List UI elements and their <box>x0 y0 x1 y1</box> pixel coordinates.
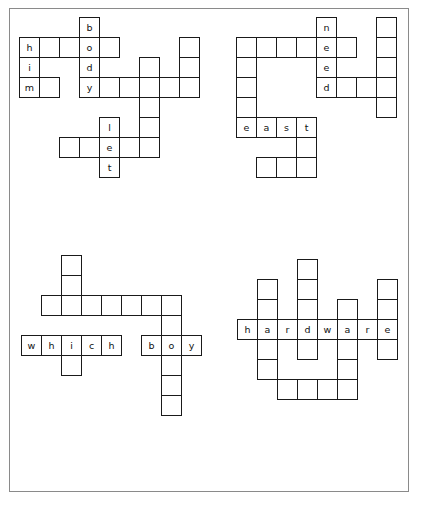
crossword-cell-empty[interactable] <box>39 37 60 58</box>
crossword-cell-filled[interactable]: d <box>316 77 337 98</box>
crossword-cell-empty[interactable] <box>99 37 120 58</box>
crossword-cell-filled[interactable]: c <box>81 335 102 356</box>
crossword-cell-empty[interactable] <box>376 57 397 78</box>
crossword-cell-empty[interactable] <box>61 255 82 276</box>
crossword-cell-empty[interactable] <box>179 77 200 98</box>
crossword-cell-empty[interactable] <box>297 299 318 320</box>
crossword-cell-empty[interactable] <box>277 379 298 400</box>
crossword-cell-filled[interactable]: b <box>79 17 100 38</box>
crossword-cell-filled[interactable]: a <box>337 319 358 340</box>
crossword-cell-empty[interactable] <box>179 57 200 78</box>
crossword-cell-filled[interactable]: m <box>19 77 40 98</box>
crossword-cell-empty[interactable] <box>236 97 257 118</box>
crossword-cell-empty[interactable] <box>257 279 278 300</box>
crossword-cell-filled[interactable]: y <box>181 335 202 356</box>
crossword-cell-empty[interactable] <box>161 355 182 376</box>
crossword-cell-filled[interactable]: e <box>316 37 337 58</box>
crossword-cell-filled[interactable]: a <box>256 117 277 138</box>
crossword-cell-filled[interactable]: e <box>99 137 120 158</box>
crossword-cell-empty[interactable] <box>257 339 278 360</box>
crossword-cell-empty[interactable] <box>61 275 82 296</box>
crossword-cell-empty[interactable] <box>337 379 358 400</box>
crossword-cell-filled[interactable]: d <box>79 57 100 78</box>
crossword-cell-empty[interactable] <box>159 77 180 98</box>
crossword-cell-empty[interactable] <box>99 77 120 98</box>
crossword-cell-empty[interactable] <box>61 355 82 376</box>
crossword-cell-filled[interactable]: e <box>316 57 337 78</box>
crossword-cell-empty[interactable] <box>141 295 162 316</box>
crossword-cell-filled[interactable]: r <box>357 319 378 340</box>
crossword-cell-empty[interactable] <box>179 37 200 58</box>
crossword-cell-filled[interactable]: s <box>276 117 297 138</box>
crossword-cell-filled[interactable]: h <box>237 319 258 340</box>
crossword-cell-empty[interactable] <box>276 157 297 178</box>
crossword-cell-empty[interactable] <box>377 339 398 360</box>
crossword-cell-empty[interactable] <box>337 359 358 380</box>
crossword-cell-empty[interactable] <box>59 137 80 158</box>
crossword-cell-empty[interactable] <box>336 37 357 58</box>
crossword-cell-empty[interactable] <box>377 299 398 320</box>
crossword-cell-empty[interactable] <box>297 259 318 280</box>
crossword-cell-empty[interactable] <box>376 77 397 98</box>
crossword-cell-empty[interactable] <box>296 137 317 158</box>
crossword-cell-empty[interactable] <box>296 157 317 178</box>
crossword-cell-empty[interactable] <box>256 157 277 178</box>
crossword-cell-empty[interactable] <box>376 17 397 38</box>
crossword-cell-empty[interactable] <box>161 315 182 336</box>
crossword-cell-empty[interactable] <box>276 37 297 58</box>
crossword-cell-filled[interactable]: r <box>277 319 298 340</box>
crossword-cell-empty[interactable] <box>39 77 60 98</box>
crossword-cell-empty[interactable] <box>139 97 160 118</box>
crossword-cell-filled[interactable]: o <box>79 37 100 58</box>
crossword-cell-filled[interactable]: o <box>161 335 182 356</box>
crossword-cell-empty[interactable] <box>59 37 80 58</box>
crossword-cell-empty[interactable] <box>376 97 397 118</box>
crossword-cell-empty[interactable] <box>41 295 62 316</box>
crossword-cell-filled[interactable]: e <box>377 319 398 340</box>
crossword-cell-empty[interactable] <box>101 295 122 316</box>
crossword-cell-filled[interactable]: l <box>99 117 120 138</box>
crossword-cell-empty[interactable] <box>119 77 140 98</box>
crossword-cell-filled[interactable]: b <box>141 335 162 356</box>
crossword-cell-filled[interactable]: e <box>236 117 257 138</box>
crossword-cell-filled[interactable]: h <box>19 37 40 58</box>
crossword-cell-empty[interactable] <box>257 299 278 320</box>
crossword-cell-empty[interactable] <box>81 295 102 316</box>
crossword-cell-empty[interactable] <box>139 117 160 138</box>
crossword-cell-empty[interactable] <box>336 77 357 98</box>
crossword-cell-empty[interactable] <box>139 137 160 158</box>
crossword-cell-filled[interactable]: h <box>101 335 122 356</box>
crossword-cell-filled[interactable]: h <box>41 335 62 356</box>
crossword-cell-filled[interactable]: y <box>79 77 100 98</box>
crossword-cell-empty[interactable] <box>236 57 257 78</box>
crossword-cell-empty[interactable] <box>61 295 82 316</box>
crossword-cell-empty[interactable] <box>139 57 160 78</box>
crossword-cell-empty[interactable] <box>236 77 257 98</box>
crossword-cell-filled[interactable]: w <box>317 319 338 340</box>
crossword-cell-filled[interactable]: d <box>297 319 318 340</box>
crossword-cell-filled[interactable]: a <box>257 319 278 340</box>
crossword-cell-empty[interactable] <box>297 339 318 360</box>
crossword-cell-empty[interactable] <box>377 279 398 300</box>
crossword-cell-empty[interactable] <box>376 37 397 58</box>
crossword-cell-empty[interactable] <box>256 37 277 58</box>
crossword-cell-empty[interactable] <box>337 299 358 320</box>
crossword-cell-filled[interactable]: w <box>21 335 42 356</box>
crossword-cell-filled[interactable]: t <box>99 157 120 178</box>
crossword-cell-filled[interactable]: i <box>61 335 82 356</box>
crossword-cell-filled[interactable]: t <box>296 117 317 138</box>
crossword-cell-empty[interactable] <box>317 379 338 400</box>
crossword-cell-empty[interactable] <box>121 295 142 316</box>
crossword-cell-empty[interactable] <box>161 395 182 416</box>
crossword-cell-empty[interactable] <box>161 375 182 396</box>
crossword-cell-filled[interactable]: i <box>19 57 40 78</box>
crossword-cell-empty[interactable] <box>297 379 318 400</box>
crossword-cell-filled[interactable]: n <box>316 17 337 38</box>
crossword-cell-empty[interactable] <box>356 77 377 98</box>
crossword-cell-empty[interactable] <box>79 137 100 158</box>
crossword-cell-empty[interactable] <box>119 137 140 158</box>
crossword-cell-empty[interactable] <box>337 339 358 360</box>
crossword-cell-empty[interactable] <box>161 295 182 316</box>
crossword-cell-empty[interactable] <box>297 279 318 300</box>
crossword-cell-empty[interactable] <box>236 37 257 58</box>
